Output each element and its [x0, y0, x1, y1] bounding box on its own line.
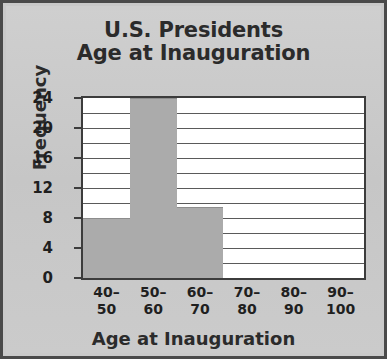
- y-tick-label: 24: [13, 89, 53, 107]
- y-tick-mark: [74, 127, 81, 129]
- chart-figure: U.S. Presidents Age at Inauguration Freq…: [0, 0, 387, 359]
- y-tick-mark: [74, 187, 81, 189]
- y-tick-label: 16: [13, 149, 53, 167]
- x-tick-label-top: 90–: [314, 284, 368, 301]
- y-tick-mark: [74, 217, 81, 219]
- y-tick-mark: [74, 157, 81, 159]
- y-tick-label: 12: [13, 179, 53, 197]
- chart-title: U.S. Presidents Age at Inauguration: [3, 19, 384, 65]
- chart-title-line-1: U.S. Presidents: [3, 19, 384, 42]
- plot-area: [81, 96, 366, 280]
- x-tick-label-bottom: 100: [314, 301, 368, 318]
- chart-title-line-2: Age at Inauguration: [3, 42, 384, 65]
- y-tick-label: 0: [13, 269, 53, 287]
- x-tick-label: 90–100: [314, 284, 368, 318]
- y-axis-label: Frequency: [29, 38, 50, 198]
- y-tick-mark: [74, 97, 81, 99]
- y-tick-mark: [74, 277, 81, 279]
- bar: [130, 98, 177, 278]
- y-tick-label: 20: [13, 119, 53, 137]
- bar: [177, 207, 224, 278]
- y-tick-mark: [74, 247, 81, 249]
- bar: [83, 218, 130, 278]
- y-tick-label: 4: [13, 239, 53, 257]
- bar-series: [83, 98, 364, 278]
- y-tick-label: 8: [13, 209, 53, 227]
- x-axis-label: Age at Inauguration: [3, 328, 384, 349]
